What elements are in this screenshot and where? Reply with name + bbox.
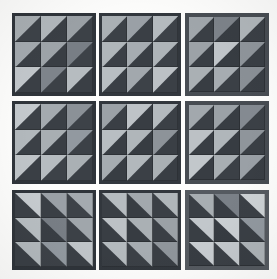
triangle-cell bbox=[127, 16, 152, 42]
triangle-shape bbox=[240, 242, 265, 266]
triangle-cell bbox=[67, 242, 93, 267]
triangle-shape bbox=[127, 130, 152, 156]
triangle-shape bbox=[214, 130, 239, 155]
block-r3c1 bbox=[12, 190, 96, 270]
triangle-cell bbox=[102, 67, 127, 93]
triangle-shape bbox=[153, 242, 178, 267]
triangle-cell bbox=[15, 16, 41, 42]
block-r3c3 bbox=[185, 190, 269, 270]
triangle-shape bbox=[15, 193, 41, 218]
triangle-cell bbox=[41, 218, 67, 243]
triangle-shape bbox=[214, 194, 239, 218]
block-r3c2 bbox=[99, 190, 181, 270]
triangle-shape bbox=[127, 155, 152, 181]
triangle-cell bbox=[102, 104, 127, 130]
triangle-cell bbox=[153, 130, 178, 156]
triangle-shape bbox=[41, 130, 67, 156]
triangle-cell bbox=[15, 242, 41, 267]
triangle-cell bbox=[189, 42, 214, 67]
triangle-shape bbox=[127, 104, 152, 130]
triangle-shape bbox=[189, 155, 214, 180]
triangle-shape bbox=[240, 130, 265, 155]
triangle-shape bbox=[67, 130, 93, 156]
triangle-cell bbox=[127, 155, 152, 181]
triangle-cell bbox=[67, 218, 93, 243]
triangle-cell bbox=[127, 67, 152, 93]
block-r1c2 bbox=[99, 13, 181, 96]
triangle-shape bbox=[67, 242, 93, 267]
triangle-shape bbox=[153, 193, 178, 218]
block-r2c3 bbox=[185, 101, 269, 184]
triangle-cell bbox=[153, 218, 178, 243]
triangle-cell bbox=[153, 42, 178, 68]
triangle-cell bbox=[127, 242, 152, 267]
triangle-cell bbox=[102, 16, 127, 42]
triangle-cell bbox=[15, 193, 41, 218]
triangle-cell bbox=[127, 130, 152, 156]
triangle-shape bbox=[102, 104, 127, 130]
triangle-cell bbox=[214, 155, 239, 180]
triangle-cell bbox=[240, 130, 265, 155]
triangle-cell bbox=[240, 17, 265, 42]
triangle-cell bbox=[41, 130, 67, 156]
triangle-shape bbox=[127, 67, 152, 93]
triangle-shape bbox=[240, 105, 265, 130]
triangle-shape bbox=[41, 104, 67, 130]
triangle-shape bbox=[67, 218, 93, 243]
triangle-cell bbox=[41, 16, 67, 42]
triangle-cell bbox=[15, 155, 41, 181]
triangle-shape bbox=[240, 42, 265, 67]
triangle-shape bbox=[67, 67, 93, 93]
triangle-cell bbox=[127, 104, 152, 130]
triangle-shape bbox=[15, 130, 41, 156]
triangle-shape bbox=[41, 218, 67, 243]
triangle-shape bbox=[127, 42, 152, 68]
triangle-cell bbox=[153, 193, 178, 218]
triangle-cell bbox=[153, 16, 178, 42]
block-r2c1 bbox=[12, 101, 96, 184]
triangle-cell bbox=[41, 155, 67, 181]
triangle-shape bbox=[153, 218, 178, 243]
triangle-cell bbox=[67, 155, 93, 181]
triangle-cell bbox=[240, 155, 265, 180]
triangle-shape bbox=[127, 218, 152, 243]
triangle-cell bbox=[189, 105, 214, 130]
triangle-cell bbox=[67, 130, 93, 156]
triangle-cell bbox=[102, 130, 127, 156]
triangle-shape bbox=[15, 155, 41, 181]
triangle-cell bbox=[189, 67, 214, 92]
triangle-cell bbox=[15, 42, 41, 68]
triangle-cell bbox=[15, 130, 41, 156]
triangle-cell bbox=[67, 16, 93, 42]
triangle-cell bbox=[240, 242, 265, 266]
triangle-cell bbox=[153, 155, 178, 181]
triangle-cell bbox=[189, 194, 214, 218]
triangle-cell bbox=[15, 104, 41, 130]
triangle-cell bbox=[67, 193, 93, 218]
triangle-cell bbox=[41, 104, 67, 130]
block-r2c2 bbox=[99, 101, 181, 184]
triangle-shape bbox=[15, 242, 41, 267]
triangle-shape bbox=[214, 67, 239, 92]
triangle-shape bbox=[102, 130, 127, 156]
triangle-cell bbox=[41, 67, 67, 93]
triangle-cell bbox=[189, 242, 214, 266]
triangle-cell bbox=[214, 105, 239, 130]
triangle-cell bbox=[41, 242, 67, 267]
triangle-cell bbox=[214, 242, 239, 266]
triangle-shape bbox=[153, 16, 178, 42]
triangle-cell bbox=[214, 218, 239, 242]
triangle-shape bbox=[102, 42, 127, 68]
triangle-shape bbox=[189, 105, 214, 130]
triangle-shape bbox=[67, 193, 93, 218]
triangle-cell bbox=[240, 218, 265, 242]
triangle-shape bbox=[67, 42, 93, 68]
triangle-cell bbox=[240, 105, 265, 130]
triangle-shape bbox=[15, 42, 41, 68]
block-r1c3 bbox=[185, 13, 269, 96]
triangle-cell bbox=[15, 67, 41, 93]
triangle-shape bbox=[214, 42, 239, 67]
triangle-cell bbox=[41, 42, 67, 68]
triangle-shape bbox=[67, 155, 93, 181]
triangle-shape bbox=[153, 42, 178, 68]
